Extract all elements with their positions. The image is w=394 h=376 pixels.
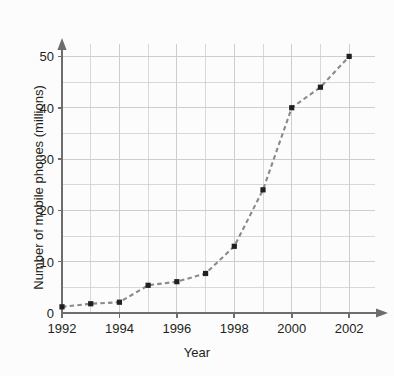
x-axis-title: Year xyxy=(0,345,394,360)
axis-tick-marks xyxy=(58,56,350,318)
line-chart-plot xyxy=(0,0,394,376)
x-tick-label-1992: 1992 xyxy=(48,321,77,336)
x-tick-label-2002: 2002 xyxy=(335,321,364,336)
grid-major-horizontal xyxy=(62,56,375,261)
x-tick-label-1996: 1996 xyxy=(162,321,191,336)
x-tick-label-1994: 1994 xyxy=(105,321,134,336)
x-tick-label-1998: 1998 xyxy=(220,321,249,336)
chart-container: 01020304050 199219941996199820002002 Num… xyxy=(0,0,394,376)
axis-lines xyxy=(57,38,388,318)
x-tick-label-2000: 2000 xyxy=(277,321,306,336)
grid-minor-horizontal xyxy=(62,82,375,287)
y-axis-title: Number of mobile phones (millions) xyxy=(31,58,46,318)
